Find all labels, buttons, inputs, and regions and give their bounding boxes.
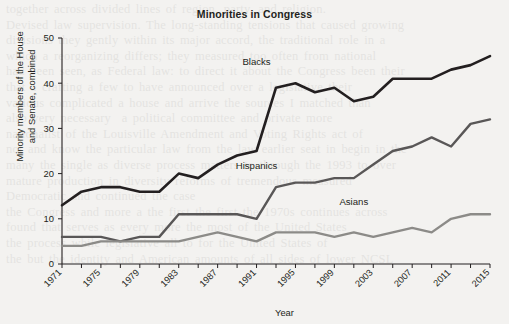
x-axis-tick-label: 1999 <box>314 267 336 289</box>
x-axis-label: Year <box>60 307 509 318</box>
y-axis-tick-label: 30 <box>44 123 54 134</box>
series-line-hispanics <box>62 119 490 241</box>
y-axis-label: Minority members of the House and Senate… <box>14 1 39 191</box>
series-line-blacks <box>62 56 490 205</box>
x-axis-tick-label: 1995 <box>275 267 297 289</box>
series-label-blacks: Blacks <box>242 56 270 67</box>
y-axis-tick-label: 10 <box>44 213 54 224</box>
x-axis-tick-label: 1987 <box>198 267 220 289</box>
x-axis-tick-label: 1991 <box>236 267 258 289</box>
x-axis-tick-label: 2011 <box>431 267 452 288</box>
chart-title: Minorities in Congress <box>0 8 509 20</box>
x-axis-tick-label: 2015 <box>470 267 492 289</box>
x-axis-tick-label: 1971 <box>42 267 64 289</box>
y-axis-tick-label: 40 <box>44 78 54 89</box>
x-axis-tick-label: 1983 <box>159 267 181 289</box>
plot-area: 0102030405019711975197919831987199119951… <box>62 38 490 264</box>
y-axis-label-line2: and Senate, combined <box>26 50 37 144</box>
y-axis-tick-label: 20 <box>44 168 54 179</box>
line-chart-svg: 0102030405019711975197919831987199119951… <box>62 38 490 264</box>
series-label-hispanics: Hispanics <box>236 160 278 171</box>
series-line-asians <box>62 214 490 246</box>
x-axis-tick-label: 1975 <box>81 267 103 289</box>
y-axis-tick-label: 50 <box>44 32 54 43</box>
x-axis-tick-label: 2007 <box>392 267 414 289</box>
x-axis-tick-label: 1979 <box>120 267 142 289</box>
x-axis-tick-label: 2003 <box>353 267 375 289</box>
y-axis-label-line1: Minority members of the House <box>14 31 25 161</box>
y-axis-tick-label: 0 <box>49 258 54 269</box>
chart-figure: Minorities in Congress Minority members … <box>0 0 509 324</box>
series-label-asians: Asians <box>339 196 368 207</box>
